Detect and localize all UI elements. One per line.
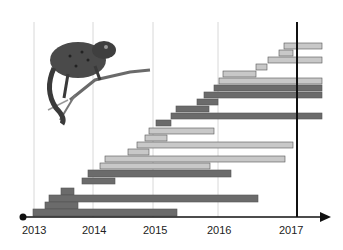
bar [137,142,293,148]
bar [268,57,322,63]
bar [49,195,258,202]
bar [197,99,218,105]
tick-label-2013: 2013 [22,224,46,236]
tick-label-2017: 2017 [279,224,303,236]
chameleon-illustration [48,41,150,124]
bar [284,43,322,49]
bar [171,113,322,119]
bar [128,149,149,155]
bar [82,178,115,184]
bar [100,163,210,169]
bar [145,135,167,141]
timeline-chart: 2013 2014 2015 2016 2017 [0,0,343,250]
bar [219,78,322,84]
bar [223,71,256,77]
bar [61,188,74,195]
bar [45,202,78,209]
bar [105,156,285,162]
axis-origin-dot [20,214,27,221]
bar [176,106,209,112]
tick-label-2014: 2014 [82,224,106,236]
bar [33,209,177,216]
bar [214,85,322,91]
bar [279,50,293,56]
bar [88,170,231,177]
bar [204,92,322,98]
tick-labels: 2013 2014 2015 2016 2017 [22,224,303,236]
bar [149,128,214,134]
axis-arrowhead-icon [320,212,331,222]
tick-label-2016: 2016 [207,224,231,236]
bar [156,120,171,126]
bar [256,64,267,70]
tick-label-2015: 2015 [143,224,167,236]
